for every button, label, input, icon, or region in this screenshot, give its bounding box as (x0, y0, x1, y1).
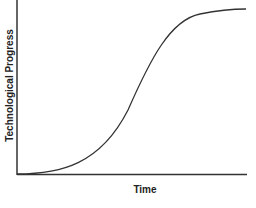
y-axis-label: Technological Progress (4, 11, 15, 161)
s-curve (17, 9, 246, 174)
x-axis-label: Time (110, 184, 180, 195)
chart-canvas (0, 0, 256, 208)
